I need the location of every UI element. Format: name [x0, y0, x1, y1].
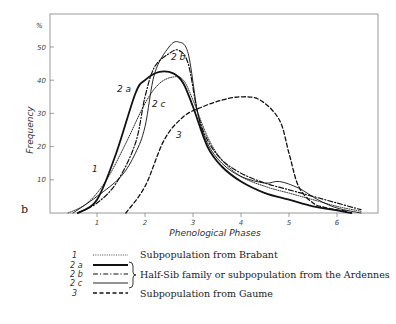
x-tick-label: 4: [239, 219, 243, 227]
curves: [68, 42, 361, 213]
legend-text-brabant: Subpopulation from Brabant: [140, 249, 278, 260]
curve-label-1: 1: [92, 164, 98, 174]
x-axis: 123456: [95, 213, 340, 227]
legend-key-2b: 2 b: [70, 270, 83, 279]
curve-2b: [78, 50, 361, 213]
y-unit-label: %: [36, 22, 43, 30]
curve-3: [126, 97, 347, 213]
chart-svg: 1020304050 123456 % Frequency Phenologic…: [0, 0, 396, 324]
legend-text-gaume: Subpopulation from Gaume: [140, 288, 273, 299]
y-axis: 1020304050: [37, 44, 54, 185]
y-tick-label: 20: [37, 143, 46, 151]
legend: 1 2 a 2 b 2 c 3 Subpopulation from Braba…: [70, 249, 390, 299]
panel-label: b: [21, 203, 28, 216]
legend-key-3: 3: [72, 289, 77, 298]
curve-2c: [73, 42, 361, 213]
x-tick-label: 6: [335, 219, 340, 227]
legend-key-2a: 2 a: [70, 261, 83, 270]
y-tick-label: 30: [37, 110, 46, 118]
x-tick-label: 2: [143, 219, 148, 227]
y-tick-label: 50: [37, 44, 46, 52]
legend-brace: [129, 262, 136, 288]
x-axis-title: Phenological Phases: [169, 228, 261, 238]
x-tick-label: 3: [191, 219, 195, 227]
curve-label-2b: 2 b: [171, 52, 186, 62]
curve-label-3: 3: [176, 130, 182, 140]
y-tick-label: 10: [37, 176, 46, 184]
legend-text-ardennes: Half-Sib family or subpopulation from th…: [140, 269, 390, 280]
y-tick-label: 40: [37, 77, 46, 85]
y-axis-title: Frequency: [25, 106, 35, 154]
curve-label-2c: 2 c: [152, 99, 166, 109]
x-tick-label: 5: [287, 219, 292, 227]
curve-1: [68, 77, 361, 213]
curve-label-2a: 2 a: [117, 84, 131, 94]
legend-key-2c: 2 c: [70, 279, 83, 288]
plot-frame: [50, 14, 378, 213]
x-tick-label: 1: [95, 219, 99, 227]
legend-key-1: 1: [72, 251, 77, 260]
